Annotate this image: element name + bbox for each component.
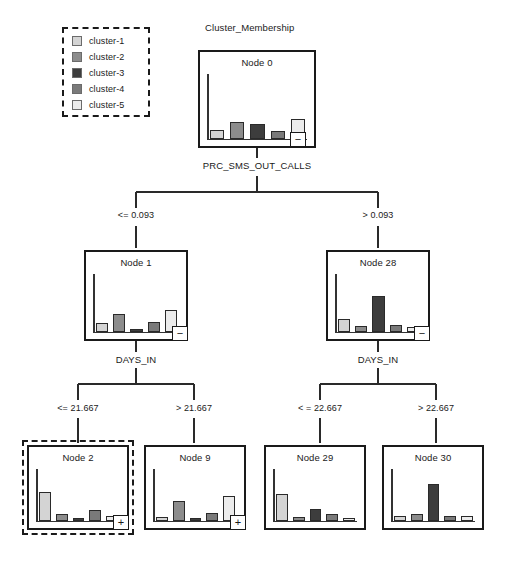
bar-cluster-2 (56, 514, 68, 520)
node-title: Node 1 (86, 252, 186, 268)
bar-cluster-1 (394, 516, 406, 520)
bar-cluster-1 (338, 319, 350, 332)
chart-x-axis (153, 521, 237, 523)
collapse-button-node-28[interactable]: − (414, 326, 430, 341)
legend-swatch-cluster-5 (72, 100, 82, 110)
bar-group (338, 274, 419, 332)
bar-cluster-5 (461, 516, 473, 521)
bar-cluster-2 (113, 314, 125, 331)
branch-label-right-left: < = 22.667 (270, 403, 370, 413)
chart-y-axis (207, 74, 209, 140)
node-bar-chart (273, 469, 357, 522)
tree-node-node-30[interactable]: Node 30 (382, 445, 484, 530)
node-bar-chart (335, 274, 421, 333)
legend-swatch-cluster-3 (72, 68, 82, 78)
bar-cluster-2 (411, 514, 423, 521)
bar-group (156, 469, 235, 521)
bar-cluster-4 (326, 514, 338, 521)
chart-y-axis (93, 274, 95, 333)
node-title: Node 28 (328, 252, 428, 268)
bar-cluster-3 (372, 296, 384, 332)
chart-y-axis (153, 469, 155, 522)
bar-group (96, 274, 177, 332)
branch-label-root-left: <= 0.093 (86, 210, 186, 220)
legend-swatch-cluster-4 (72, 84, 82, 94)
bar-cluster-3 (130, 329, 142, 332)
bar-cluster-3 (73, 518, 85, 521)
bar-group (39, 469, 118, 521)
chart-y-axis (36, 469, 38, 522)
bar-cluster-4 (444, 516, 456, 521)
split-label-left: DAYS_IN (86, 354, 186, 365)
chart-y-axis (391, 469, 393, 522)
legend-label-cluster-3: cluster-3 (89, 69, 124, 78)
bar-cluster-1 (276, 494, 288, 521)
branch-label-right-right: > 22.667 (386, 403, 486, 413)
chart-y-axis (273, 469, 275, 522)
legend-label-cluster-2: cluster-2 (89, 53, 124, 62)
legend-swatch-cluster-1 (72, 36, 82, 46)
bar-cluster-1 (39, 492, 51, 520)
bar-cluster-1 (210, 130, 224, 138)
bar-cluster-4 (271, 131, 285, 139)
legend-item: cluster-4 (72, 81, 144, 97)
branch-label-left-right: > 21.667 (144, 403, 244, 413)
collapse-button-node-0[interactable]: − (290, 132, 306, 147)
branch-label-left-left: <= 21.667 (28, 403, 128, 413)
node-bar-chart (36, 469, 120, 522)
branch-label-root-right: > 0.093 (328, 210, 428, 220)
legend-item: cluster-3 (72, 65, 144, 81)
bar-cluster-3 (250, 124, 264, 138)
node-bar-chart (207, 74, 307, 140)
bar-cluster-4 (148, 322, 160, 331)
bar-group (276, 469, 355, 521)
legend-item: cluster-2 (72, 49, 144, 65)
node-bar-chart (93, 274, 179, 333)
node-bar-chart (391, 469, 475, 522)
chart-y-axis (335, 274, 337, 333)
collapse-button-node-1[interactable]: − (172, 326, 188, 341)
bar-cluster-2 (230, 122, 244, 139)
legend-label-cluster-1: cluster-1 (89, 37, 124, 46)
bar-cluster-3 (428, 484, 440, 520)
expand-button-node-2[interactable]: + (113, 515, 129, 530)
bar-cluster-2 (173, 501, 185, 521)
chart-x-axis (273, 521, 357, 523)
node-title: Node 9 (146, 447, 244, 463)
legend-label-cluster-5: cluster-5 (89, 101, 124, 110)
legend-item: cluster-1 (72, 33, 144, 49)
chart-x-axis (36, 521, 120, 523)
chart-x-axis (391, 521, 475, 523)
node-title: Node 2 (29, 447, 127, 463)
chart-title: Cluster_Membership (205, 22, 294, 33)
bar-cluster-3 (190, 518, 202, 521)
legend-swatch-cluster-2 (72, 52, 82, 62)
bar-cluster-2 (293, 517, 305, 521)
cluster-legend: cluster-1 cluster-2 cluster-3 cluster-4 … (62, 27, 150, 117)
split-label-right: DAYS_IN (328, 354, 428, 365)
bar-cluster-2 (355, 326, 367, 332)
bar-cluster-3 (310, 509, 322, 521)
legend-label-cluster-4: cluster-4 (89, 85, 124, 94)
node-title: Node 0 (200, 52, 314, 68)
bar-cluster-4 (390, 325, 402, 332)
bar-cluster-4 (206, 513, 218, 520)
decision-tree-canvas: cluster-1 cluster-2 cluster-3 cluster-4 … (0, 0, 508, 565)
bar-group (394, 469, 473, 521)
legend-item: cluster-5 (72, 97, 144, 113)
bar-cluster-1 (96, 323, 108, 331)
chart-x-axis (93, 332, 179, 334)
bar-cluster-5 (343, 518, 355, 521)
node-title: Node 29 (266, 447, 364, 463)
tree-node-node-29[interactable]: Node 29 (264, 445, 366, 530)
expand-button-node-9[interactable]: + (230, 515, 246, 530)
bar-cluster-1 (156, 517, 168, 521)
chart-x-axis (335, 332, 421, 334)
node-bar-chart (153, 469, 237, 522)
node-title: Node 30 (384, 447, 482, 463)
split-label-root: PRC_SMS_OUT_CALLS (192, 160, 322, 171)
bar-group (210, 74, 305, 139)
bar-cluster-4 (89, 510, 101, 520)
